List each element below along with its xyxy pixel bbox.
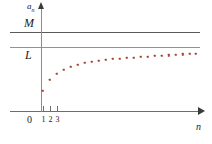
y-axis-arrow-icon (38, 2, 44, 9)
data-point (133, 56, 135, 58)
origin-label: 0 (27, 115, 32, 125)
limit-line-L (10, 47, 200, 48)
x-tick-2 (50, 106, 51, 112)
data-point (126, 57, 128, 59)
data-point (49, 79, 51, 81)
data-point (147, 55, 149, 57)
data-point (105, 59, 107, 61)
upper-bound-label-M: M (24, 17, 34, 29)
data-point (112, 58, 114, 60)
data-point (168, 54, 170, 56)
data-point (98, 60, 100, 62)
x-tick-label-3: 3 (56, 116, 60, 124)
x-axis-label: n (196, 122, 201, 132)
data-point (91, 61, 93, 63)
data-point (56, 73, 58, 75)
data-point (77, 64, 79, 66)
data-point (63, 69, 65, 71)
limit-label-L: L (25, 49, 32, 61)
x-tick-label-2: 2 (49, 116, 53, 124)
data-point (182, 53, 184, 55)
data-point (140, 56, 142, 58)
x-tick-3 (57, 106, 58, 112)
sequence-convergence-diagram: an M L n 0 123 (0, 0, 212, 144)
data-point (154, 55, 156, 57)
x-axis-arrow-icon (198, 107, 205, 115)
y-axis-label-subscript: n (32, 7, 35, 13)
data-point (175, 54, 177, 56)
y-axis-label: an (27, 2, 35, 13)
x-tick-1 (43, 106, 44, 112)
x-tick-label-1: 1 (42, 116, 46, 124)
data-point (42, 90, 44, 92)
upper-bound-line-M (10, 32, 200, 33)
data-point (119, 57, 121, 59)
data-point (70, 66, 72, 68)
data-point (189, 53, 191, 55)
x-axis (10, 111, 200, 112)
data-point (161, 54, 163, 56)
y-axis (41, 8, 42, 112)
data-point (195, 53, 197, 55)
data-point (84, 62, 86, 64)
